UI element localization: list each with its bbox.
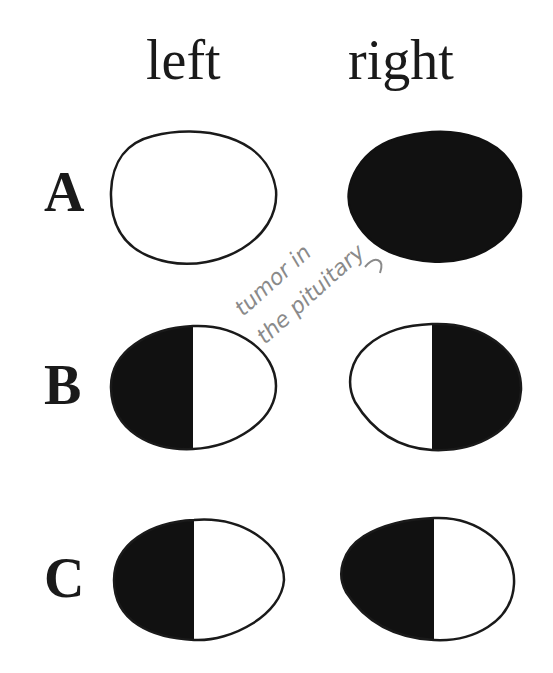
row-label-a: A [44,164,84,220]
row-label-c: C [44,550,84,606]
visual-field-c-right [338,512,518,646]
column-header-right: right [348,32,454,88]
column-header-left: left [146,32,221,88]
handwritten-annotation: tumor in the pituitary [225,245,455,365]
visual-field-a-right [345,128,523,264]
row-label-b: B [44,357,81,413]
visual-field-c-left [112,514,288,646]
